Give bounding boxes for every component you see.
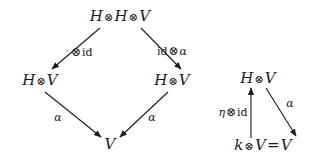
node-bottom-part-v: V (104, 135, 115, 153)
edge-label-alpha-unit: α (286, 98, 293, 109)
edge-label-mult-tensor-id: ·⊗id (65, 46, 92, 58)
tensor-icon: ⊗ (167, 74, 178, 87)
edge-label-alpha-right: α (148, 112, 155, 123)
tensor-icon: ⊗ (103, 10, 114, 23)
arrow-apex-to-base (266, 88, 296, 136)
edge-label-id-text: id (157, 45, 168, 58)
node-middle-right-part-v: V (179, 71, 190, 89)
tensor-icon: ⊗ (253, 72, 264, 85)
equals-icon: = (266, 136, 281, 154)
node-unit-apex-part-v: V (265, 69, 276, 87)
node-unit-apex-h-v: H⊗V (240, 71, 276, 86)
node-middle-left-h-v: H⊗V (22, 73, 58, 88)
tensor-icon: ⊗ (244, 139, 255, 152)
alpha-symbol: α (180, 45, 187, 58)
tensor-icon: ⊗ (70, 45, 82, 59)
edge-label-id-text: id (237, 106, 248, 119)
node-top-part-v: V (139, 7, 150, 25)
eta-symbol: η (218, 106, 225, 119)
alpha-symbol: α (54, 111, 61, 124)
node-top-part-h2: H (114, 7, 127, 25)
edge-label-id-text: id (82, 46, 93, 59)
edge-label-id-tensor-alpha: id⊗α (157, 45, 187, 57)
node-middle-right-h-v: H⊗V (154, 73, 190, 88)
tensor-icon: ⊗ (35, 74, 46, 87)
alpha-symbol: α (148, 111, 155, 124)
node-top-part-h1: H (90, 7, 103, 25)
alpha-symbol: α (286, 97, 293, 110)
node-middle-right-part-h: H (154, 71, 167, 89)
node-unit-apex-part-h: H (240, 69, 253, 87)
node-unit-base-k-v-equals-v: k⊗V=V (234, 138, 292, 153)
node-unit-base-part-v1: V (255, 136, 266, 154)
node-middle-left-part-v: V (47, 71, 58, 89)
node-unit-base-part-k: k (234, 136, 243, 154)
node-unit-base-part-v2: V (281, 136, 292, 154)
multiplication-dot-icon: · (65, 45, 70, 58)
node-top-h-h-v: H⊗H⊗V (90, 9, 150, 24)
arrow-middle-right-to-bottom (120, 92, 168, 137)
edge-label-alpha-left: α (54, 112, 61, 123)
diagram-canvas: H⊗H⊗V H⊗V H⊗V V ·⊗id id⊗α α α H⊗V k⊗V=V … (0, 0, 315, 160)
node-middle-left-part-h: H (22, 71, 35, 89)
tensor-icon: ⊗ (225, 105, 237, 119)
tensor-icon: ⊗ (128, 10, 139, 23)
tensor-icon: ⊗ (168, 44, 180, 58)
edge-label-eta-tensor-id: η⊗id (218, 106, 247, 118)
node-bottom-v: V (104, 137, 115, 152)
